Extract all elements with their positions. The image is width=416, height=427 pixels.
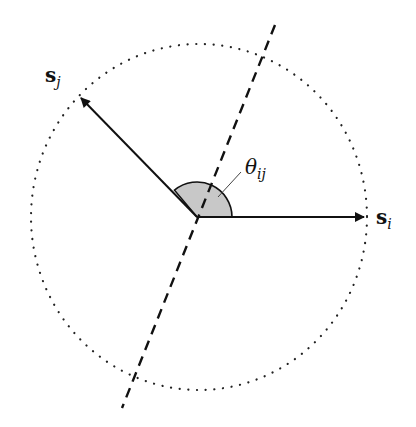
label-s-i: si	[376, 205, 392, 232]
label-theta-ij: θij	[245, 155, 267, 182]
angle-leader-line	[218, 172, 241, 197]
label-s-j: sj	[45, 63, 61, 90]
diagram-canvas: si sj θij	[0, 0, 416, 427]
angle-sector	[175, 182, 233, 217]
vector-s-j	[81, 98, 197, 217]
